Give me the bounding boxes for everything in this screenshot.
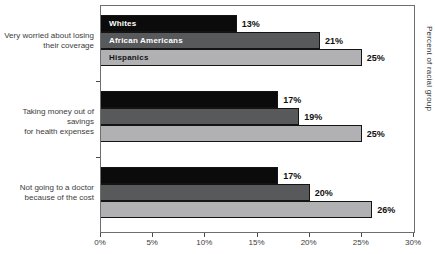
bar-hispanics-category-1: Hispanics: [101, 49, 362, 66]
category-boundary-tick-1: [96, 81, 100, 82]
bar-whites-category-3: [101, 167, 278, 184]
bar-chart: Very worried about losingtheir coverageT…: [0, 0, 435, 254]
value-label-african-americans-category-3: 20%: [315, 188, 333, 198]
x-tick-mark-25%: [361, 233, 362, 237]
category-boundary-tick-2: [96, 157, 100, 158]
x-tick-mark-5%: [152, 233, 153, 237]
x-tick-mark-0%: [100, 233, 101, 237]
bar-hispanics-category-2: [101, 125, 362, 142]
category-label-1: Very worried about losingtheir coverage: [0, 31, 94, 51]
value-label-hispanics-category-1: 25%: [367, 53, 385, 63]
x-tick-mark-30%: [413, 233, 414, 237]
value-label-hispanics-category-2: 25%: [367, 129, 385, 139]
category-label-3: Not going to a doctorbecause of the cost: [0, 183, 94, 203]
x-tick-mark-20%: [309, 233, 310, 237]
x-tick-label-10%: 10%: [196, 238, 212, 247]
x-tick-label-5%: 5%: [146, 238, 158, 247]
series-label-hispanics: Hispanics: [101, 53, 149, 62]
value-label-whites-category-3: 17%: [283, 171, 301, 181]
value-label-african-americans-category-2: 19%: [304, 112, 322, 122]
x-tick-mark-15%: [257, 233, 258, 237]
category-label-2: Taking money out of savingsfor health ex…: [0, 107, 94, 137]
bar-african-americans-category-3: [101, 184, 310, 201]
value-label-whites-category-1: 13%: [242, 19, 260, 29]
bar-african-americans-category-2: [101, 108, 299, 125]
bar-whites-category-2: [101, 91, 278, 108]
x-tick-label-0%: 0%: [94, 238, 106, 247]
series-label-whites: Whites: [101, 19, 136, 28]
value-label-hispanics-category-3: 26%: [377, 205, 395, 215]
x-tick-label-25%: 25%: [353, 238, 369, 247]
x-tick-mark-10%: [204, 233, 205, 237]
value-label-whites-category-2: 17%: [283, 95, 301, 105]
plot-area: Whites13%African Americans21%Hispanics25…: [100, 5, 415, 233]
series-label-african-americans: African Americans: [101, 36, 183, 45]
bar-african-americans-category-1: African Americans: [101, 32, 320, 49]
x-tick-label-20%: 20%: [301, 238, 317, 247]
bar-whites-category-1: Whites: [101, 15, 237, 32]
x-tick-label-15%: 15%: [248, 238, 264, 247]
value-label-african-americans-category-1: 21%: [325, 36, 343, 46]
bar-hispanics-category-3: [101, 201, 372, 218]
x-tick-label-30%: 30%: [405, 238, 421, 247]
right-axis-title: Percent of racial group: [425, 26, 434, 111]
